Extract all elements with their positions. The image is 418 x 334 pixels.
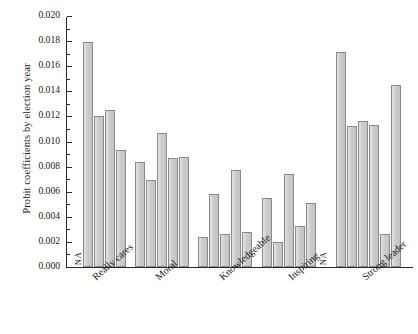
bar (157, 133, 167, 267)
y-tick-label: 0.014 (38, 84, 60, 95)
bar (273, 242, 283, 267)
y-tick-mark-minor (67, 104, 70, 105)
y-tick-mark-minor (67, 54, 70, 55)
y-tick-mark-minor (67, 29, 70, 30)
bar (94, 116, 104, 267)
y-tick-mark-minor (67, 79, 70, 80)
y-tick-mark-minor (67, 179, 70, 180)
y-tick-label: 0.016 (38, 59, 60, 70)
bar-group-really-cares: NA (72, 17, 127, 267)
y-tick-mark (67, 267, 72, 268)
y-tick-label: 0.000 (38, 260, 60, 271)
bar-group-moral (135, 17, 190, 267)
y-tick-label: 0.004 (38, 210, 60, 221)
y-tick-label: 0.002 (38, 235, 60, 246)
y-tick-mark-minor (67, 129, 70, 130)
plot-area: 0.0000.0020.0040.0060.0080.0100.0120.014… (66, 17, 413, 268)
y-tick-label: 0.006 (38, 185, 60, 196)
bar (83, 42, 93, 267)
y-tick-label: 0.010 (38, 135, 60, 146)
bar (146, 180, 156, 267)
bar (369, 125, 379, 267)
bar (358, 121, 368, 267)
bar-chart-figure: Probit coefficients by election year 0.0… (0, 0, 418, 334)
bar (347, 126, 357, 267)
y-tick-mark-minor (67, 154, 70, 155)
bar (105, 110, 115, 267)
bar (336, 52, 346, 267)
bar-group-knowledgeable (198, 17, 253, 267)
bar (135, 162, 145, 267)
y-tick-mark-minor (67, 204, 70, 205)
y-tick-mark-minor (67, 229, 70, 230)
y-tick-mark-minor (67, 254, 70, 255)
bar (209, 194, 219, 267)
y-axis-title: Probit coefficients by election year (21, 19, 32, 259)
missing-value-na-label: NA (73, 252, 83, 265)
bar (198, 237, 208, 267)
bar (179, 157, 189, 267)
y-tick-label: 0.018 (38, 34, 60, 45)
y-tick-label: 0.020 (38, 9, 60, 20)
bar (168, 158, 178, 267)
y-tick-label: 0.012 (38, 109, 60, 120)
bar-group-strong-leader (336, 17, 402, 267)
bar-group-inspiring: NA (262, 17, 328, 267)
bar (284, 174, 294, 267)
y-tick-label: 0.008 (38, 160, 60, 171)
